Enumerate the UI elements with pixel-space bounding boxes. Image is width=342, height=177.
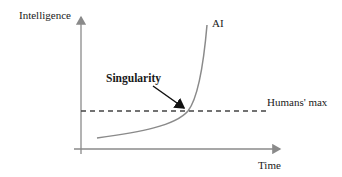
y-axis-label: Intelligence bbox=[19, 9, 71, 21]
singularity-label: Singularity bbox=[106, 72, 161, 84]
ai-curve-label: AI bbox=[212, 17, 224, 29]
singularity-diagram bbox=[0, 0, 342, 177]
x-axis-label: Time bbox=[258, 159, 281, 171]
humans-max-label: Humans' max bbox=[267, 96, 327, 108]
singularity-arrow bbox=[153, 86, 184, 108]
